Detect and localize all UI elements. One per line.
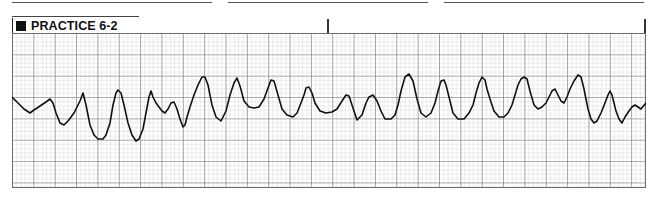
practice-title-text: PRACTICE 6-2	[31, 19, 118, 33]
section-divider	[327, 19, 329, 33]
ecg-grid-and-trace	[12, 33, 646, 188]
answer-line-2	[228, 2, 428, 3]
title-rule	[12, 16, 139, 17]
ecg-strip	[12, 33, 646, 188]
practice-title: PRACTICE 6-2	[12, 18, 118, 33]
filled-square-icon	[16, 21, 26, 31]
right-edge-divider	[644, 19, 646, 33]
ecg-grid	[12, 33, 646, 188]
answer-line-3	[444, 2, 644, 3]
answer-line-1	[12, 2, 212, 3]
